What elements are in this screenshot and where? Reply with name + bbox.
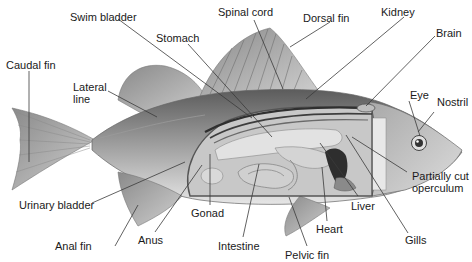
fish-illustration	[0, 0, 472, 262]
caudal-fin-shape	[12, 108, 95, 190]
label-pelvic-fin: Pelvic fin	[285, 249, 329, 261]
label-intestine: Intestine	[218, 240, 260, 252]
label-anus: Anus	[138, 234, 163, 246]
label-liver: Liver	[351, 200, 375, 212]
label-partially-cut-operculum-line1: Partially cut	[412, 170, 469, 182]
label-gills: Gills	[405, 234, 426, 246]
label-heart: Heart	[316, 223, 343, 235]
label-lateral-line-line1: Lateral	[73, 81, 107, 93]
label-eye: Eye	[410, 89, 429, 101]
label-urinary-bladder: Urinary bladder	[19, 199, 94, 211]
spiny-dorsal-fin-shape	[200, 28, 318, 96]
gonad-shape	[201, 168, 223, 184]
label-kidney: Kidney	[381, 6, 415, 18]
label-stomach: Stomach	[156, 32, 199, 44]
label-spinal-cord: Spinal cord	[218, 6, 273, 18]
fish-anatomy-diagram: Swim bladder Spinal cord Dorsal fin Kidn…	[0, 0, 472, 262]
label-lateral-line-line2: line	[73, 93, 90, 105]
label-nostril: Nostril	[437, 96, 468, 108]
brain-shape	[357, 104, 375, 112]
label-partially-cut-operculum-line2: operculum	[412, 182, 463, 194]
label-gonad: Gonad	[191, 207, 224, 219]
label-brain: Brain	[436, 27, 462, 39]
label-swim-bladder: Swim bladder	[70, 11, 137, 23]
label-dorsal-fin: Dorsal fin	[303, 12, 349, 24]
label-anal-fin: Anal fin	[55, 240, 92, 252]
label-caudal-fin: Caudal fin	[6, 59, 56, 71]
